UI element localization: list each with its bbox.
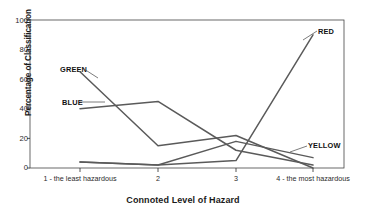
y-axis-ticks	[27, 20, 30, 168]
plot-area	[0, 0, 366, 215]
plot-frame	[30, 20, 344, 168]
x-axis-ticks	[80, 168, 313, 172]
series-line-red	[80, 35, 313, 165]
line-chart: Percentage of Classification Connoted Le…	[0, 0, 366, 215]
series-lines	[80, 35, 313, 168]
series-line-blue	[80, 101, 313, 165]
label-leader-lines	[80, 31, 317, 152]
